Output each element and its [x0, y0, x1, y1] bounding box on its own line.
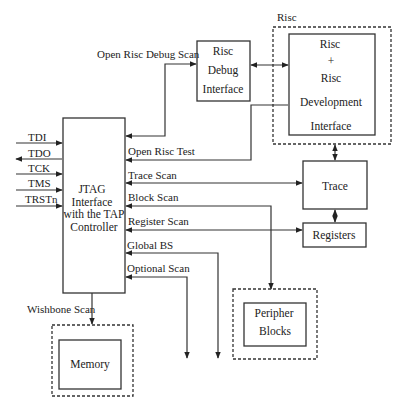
- svg-text:Register Scan: Register Scan: [128, 215, 189, 227]
- svg-text:TDO: TDO: [28, 147, 51, 159]
- risc-debug-label-3: Interface: [203, 83, 244, 95]
- risc-group-label: Risc: [277, 11, 297, 23]
- chain-register-scan: Register Scan: [126, 215, 302, 230]
- svg-text:Block Scan: Block Scan: [128, 191, 179, 203]
- svg-text:TCK: TCK: [28, 162, 50, 174]
- signal-tms: TMS: [16, 177, 62, 190]
- peripher-label-2: Blocks: [259, 325, 291, 337]
- memory-label: Memory: [70, 358, 110, 371]
- svg-text:Optional Scan: Optional Scan: [127, 262, 190, 274]
- svg-text:TDI: TDI: [28, 131, 47, 143]
- risc-debug-label-1: Risc: [213, 45, 233, 57]
- registers-label: Registers: [313, 229, 356, 242]
- svg-text:Trace Scan: Trace Scan: [128, 169, 177, 181]
- signal-tdo: TDO: [16, 147, 62, 159]
- risc-dev-label-2: +: [328, 55, 335, 67]
- svg-text:TRSTn: TRSTn: [25, 193, 58, 205]
- svg-text:Open Risc Test: Open Risc Test: [128, 145, 195, 157]
- risc-debug-label-2: Debug: [208, 64, 239, 77]
- jtag-label-4: Controller: [70, 221, 117, 233]
- signal-tdi: TDI: [16, 131, 62, 143]
- svg-text:Global BS: Global BS: [127, 239, 173, 251]
- risc-dev-label-3: Risc: [321, 72, 341, 84]
- chain-trace-scan: Trace Scan: [126, 169, 302, 183]
- trace-label: Trace: [322, 180, 348, 192]
- signal-trstn: TRSTn: [16, 193, 62, 206]
- jtag-block-diagram: JTAG Interface with the TAP Controller T…: [0, 0, 403, 415]
- chain-open-risc-test: Open Risc Test: [126, 105, 288, 160]
- chain-optional-scan: Optional Scan: [126, 262, 190, 358]
- peripher-label-1: Peripher: [255, 307, 294, 320]
- chain-wishbone-scan: Wishbone Scan: [27, 293, 96, 324]
- svg-text:Wishbone Scan: Wishbone Scan: [27, 303, 96, 315]
- jtag-label-2: Interface: [72, 196, 113, 208]
- risc-dev-label-5: Interface: [311, 120, 352, 132]
- jtag-label-3: with the TAP: [64, 208, 125, 220]
- jtag-label-1: JTAG: [78, 183, 105, 195]
- risc-dev-label-4: Development: [300, 96, 363, 109]
- chain-global-bs: Global BS: [126, 239, 218, 358]
- signal-tck: TCK: [16, 162, 62, 174]
- svg-text:TMS: TMS: [28, 177, 51, 189]
- risc-dev-label-1: Risc: [320, 38, 340, 50]
- svg-text:Open Risc Debug Scan: Open Risc Debug Scan: [97, 48, 200, 60]
